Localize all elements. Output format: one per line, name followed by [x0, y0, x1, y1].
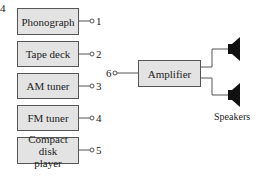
- tape-deck-box: Tape deck: [17, 41, 79, 67]
- speaker-icon: [228, 37, 240, 107]
- phonograph-box: Phonograph: [17, 8, 79, 35]
- speakers-label: Speakers: [214, 111, 250, 123]
- terminal-3: 3: [96, 80, 102, 92]
- terminal-2: 2: [96, 48, 102, 60]
- terminal-4: 4: [96, 112, 102, 124]
- am-tuner-box: AM tuner: [17, 73, 79, 99]
- terminal-6: 6: [106, 67, 112, 79]
- fm-tuner-box: FM tuner: [17, 105, 79, 131]
- amplifier-box: Amplifier: [138, 60, 201, 87]
- compact-disk-player-box: Compact disk player: [17, 137, 79, 164]
- terminal-1: 1: [96, 15, 102, 27]
- terminal-5: 5: [96, 144, 102, 156]
